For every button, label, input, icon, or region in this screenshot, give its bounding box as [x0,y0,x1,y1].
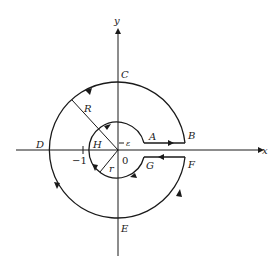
point-F-label: F [187,159,196,170]
radius-R-label: R [83,103,92,114]
keyhole-contour-diagram: y x C B A D H G F E R r ε −1 0 [0,0,278,270]
arrow-FG-icon [158,154,164,160]
epsilon-label: ε [126,139,130,148]
radius-r-label: r [109,163,115,174]
origin-label: 0 [122,155,128,166]
point-E-label: E [120,223,129,234]
point-G-label: G [146,160,154,171]
arrow-AB-icon [168,140,174,146]
point-B-label: B [187,130,195,141]
point-H-label: H [92,139,102,150]
point-C-label: C [121,69,129,80]
y-axis-label: y [113,15,120,26]
point-D-label: D [35,139,44,150]
x-axis-label: x [262,145,268,156]
tick-minus-one-label: −1 [72,155,87,166]
arrow-outer-right-icon [176,189,182,197]
diagram-canvas: y x C B A D H G F E R r ε −1 0 [0,0,278,270]
y-axis-arrow-icon [115,28,121,34]
point-A-label: A [148,131,156,142]
